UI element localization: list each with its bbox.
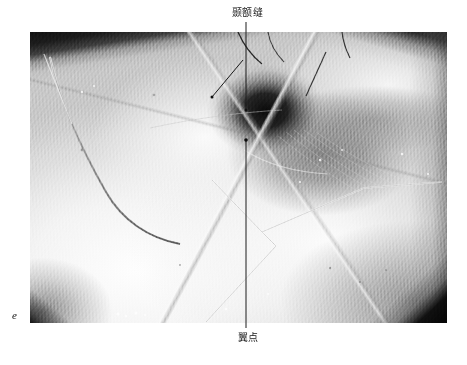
film-grain-texture [30, 32, 447, 323]
anatomical-photograph [30, 32, 447, 323]
figure-container: 颞额缝 翼点 e [0, 0, 467, 365]
label-sphenofrontal-suture: 颞额缝 [0, 7, 467, 19]
figure-letter: e [12, 309, 17, 321]
label-pterion: 翼点 [0, 332, 467, 344]
